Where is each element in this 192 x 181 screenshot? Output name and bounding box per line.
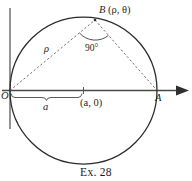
- label-point-b: B: [99, 4, 106, 15]
- label-center-coords: (a, 0): [80, 97, 103, 109]
- label-segment-a: a: [43, 101, 48, 112]
- brace-segment-a: [11, 94, 82, 101]
- right-angle-arc: [80, 33, 109, 40]
- label-rho: ρ: [43, 43, 49, 54]
- label-point-b-coords: (ρ, θ): [108, 4, 131, 16]
- figure-caption: Ex. 28: [0, 166, 192, 178]
- label-origin: O: [1, 90, 9, 101]
- figure-container: B (ρ, θ) ρ 90° O a (a, 0) A: [0, 0, 192, 181]
- label-right-angle: 90°: [85, 43, 99, 53]
- geometry-diagram: B (ρ, θ) ρ 90° O a (a, 0) A: [0, 0, 192, 181]
- x-axis-arrowhead-icon: [176, 86, 189, 96]
- label-point-a: A: [154, 92, 162, 103]
- segment-origin-to-b: [10, 20, 95, 91]
- point-b-marker: [94, 19, 97, 22]
